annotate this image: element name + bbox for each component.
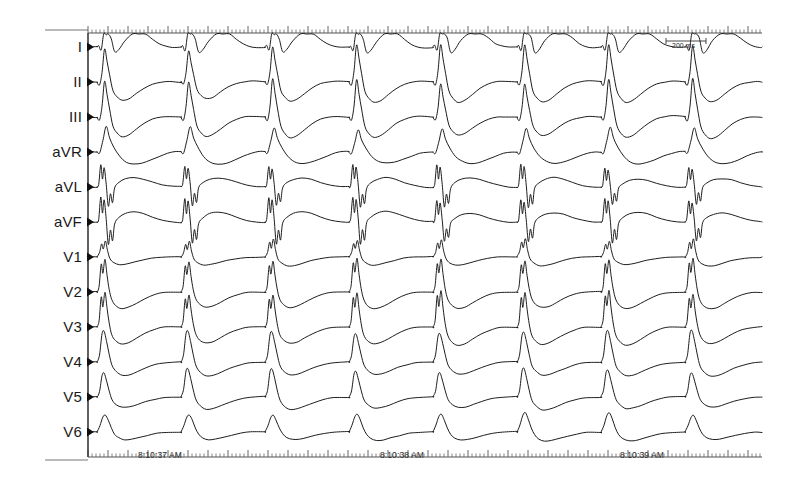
ecg-canvas	[0, 0, 804, 491]
lead-label-avr: aVR	[24, 144, 82, 159]
time-axis-label: 8:10:37 AM	[138, 450, 182, 460]
ecg-trace-i	[88, 33, 762, 53]
ecg-trace-v5	[88, 368, 762, 410]
ecg-trace-avl	[88, 164, 762, 208]
ecg-trace-avr	[88, 126, 762, 164]
ecg-trace-v2	[88, 258, 762, 309]
lead-label-ii: II	[24, 74, 82, 89]
time-axis-label: 8:10:39 AM	[620, 450, 664, 460]
lead-label-v3: V3	[24, 319, 82, 334]
ecg-strip-viewer: IIIIIIaVRaVLaVFV1V2V3V4V5V6 8:10:37 AM8:…	[0, 0, 804, 491]
ecg-trace-v6	[88, 412, 762, 441]
lead-label-v1: V1	[24, 249, 82, 264]
ecg-trace-avf	[88, 197, 762, 245]
lead-label-iii: III	[24, 109, 82, 124]
lead-label-avf: aVF	[24, 214, 82, 229]
ecg-waveform-traces	[87, 33, 762, 441]
scale-bar-label: 200 ms	[672, 42, 695, 49]
lead-label-i: I	[24, 39, 82, 54]
time-axis-label: 8:10:38 AM	[380, 450, 424, 460]
lead-label-v2: V2	[24, 284, 82, 299]
ruler-top	[88, 26, 762, 33]
lead-label-v4: V4	[24, 354, 82, 369]
ecg-trace-v4	[88, 330, 762, 376]
lead-label-v5: V5	[24, 389, 82, 404]
lead-label-avl: aVL	[24, 179, 82, 194]
ecg-trace-v3	[88, 290, 762, 345]
ecg-trace-ii	[88, 45, 762, 103]
lead-label-v6: V6	[24, 424, 82, 439]
